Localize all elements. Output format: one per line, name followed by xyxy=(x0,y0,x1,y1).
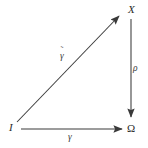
diagram-canvas xyxy=(0,0,148,148)
commutative-diagram: I X Ω ˜ γ ρ γ xyxy=(0,0,148,148)
node-label-X: X xyxy=(128,4,135,15)
edge-label-vertical-rho: ρ xyxy=(133,64,138,74)
node-label-I: I xyxy=(9,122,13,133)
node-label-omega: Ω xyxy=(127,123,135,134)
edge-diagonal-arrow xyxy=(17,16,119,122)
accent-stack-gamma-tilde: ˜ γ xyxy=(60,52,64,62)
tilde-accent-icon: ˜ xyxy=(60,45,63,54)
edge-label-horizontal-gamma: γ xyxy=(68,133,72,143)
edge-label-diagonal-gamma-tilde: ˜ γ xyxy=(60,52,64,62)
